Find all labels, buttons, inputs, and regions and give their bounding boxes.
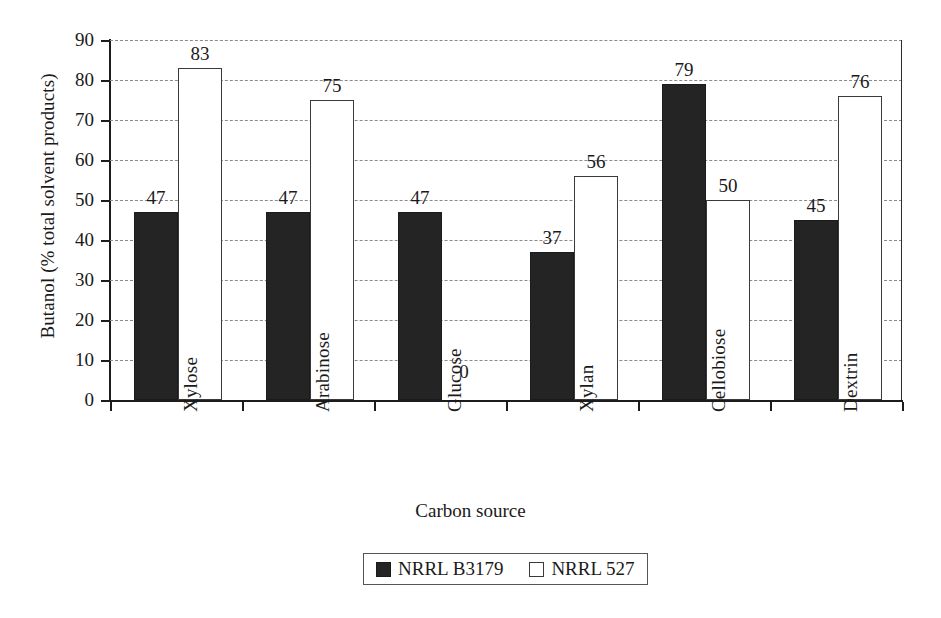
bar-value-label: 45 — [794, 196, 838, 215]
gridline — [110, 240, 902, 241]
plot-area: 47834775470375679504576 — [110, 40, 902, 400]
y-axis-tick — [101, 320, 110, 322]
y-axis-tick-label: 10 — [48, 350, 94, 369]
bar-value-label: 56 — [574, 152, 618, 171]
y-axis-tick-label: 50 — [48, 190, 94, 209]
y-axis-tick — [101, 40, 110, 42]
y-axis-tick-label: 90 — [48, 30, 94, 49]
x-axis-category-label: Cellobiose — [708, 329, 730, 412]
x-axis-tick — [242, 402, 244, 411]
bar — [662, 84, 706, 400]
x-axis-title: Carbon source — [0, 500, 941, 522]
bar — [398, 212, 442, 400]
bar — [794, 220, 838, 400]
y-axis-tick-label: 30 — [48, 270, 94, 289]
x-axis-category-label: Xylose — [180, 357, 202, 412]
y-axis-tick — [101, 80, 110, 82]
gridline — [110, 40, 902, 41]
y-axis-tick — [101, 240, 110, 242]
bar-value-label: 47 — [398, 188, 442, 207]
chart-legend: NRRL B3179NRRL 527 — [363, 553, 648, 585]
bar-value-label: 76 — [838, 72, 882, 91]
x-axis-category-label: Xylan — [576, 365, 598, 412]
legend-item: NRRL 527 — [529, 558, 634, 580]
bar — [266, 212, 310, 400]
bar — [530, 252, 574, 400]
y-axis-tick-label: 40 — [48, 230, 94, 249]
x-axis-tick — [770, 402, 772, 411]
x-axis-tick — [374, 402, 376, 411]
bar-value-label: 75 — [310, 76, 354, 95]
x-axis-category-label: Arabinose — [312, 332, 334, 412]
gridline — [110, 80, 902, 81]
y-axis-tick-label: 20 — [48, 310, 94, 329]
y-axis-tick — [101, 360, 110, 362]
legend-swatch-icon — [529, 562, 544, 577]
x-axis-tick — [902, 402, 904, 411]
x-axis-category-label: Dextrin — [840, 353, 862, 412]
gridline — [110, 360, 902, 361]
bar-value-label: 37 — [530, 228, 574, 247]
bar-chart-figure: Butanol (% total solvent products) 01020… — [0, 0, 941, 618]
y-axis-tick-label: 80 — [48, 70, 94, 89]
y-axis-tick — [101, 400, 110, 402]
y-axis-tick-label: 0 — [48, 390, 94, 409]
gridline — [110, 280, 902, 281]
y-axis-tick — [101, 200, 110, 202]
x-axis-tick — [110, 402, 112, 411]
y-axis-tick — [101, 120, 110, 122]
bar-value-label: 50 — [706, 176, 750, 195]
legend-label: NRRL 527 — [551, 558, 634, 580]
gridline — [110, 160, 902, 161]
y-axis-tick — [101, 280, 110, 282]
bar-value-label: 47 — [134, 188, 178, 207]
gridline — [110, 320, 902, 321]
gridline — [110, 120, 902, 121]
bar-value-label: 47 — [266, 188, 310, 207]
bar — [178, 68, 222, 400]
legend-swatch-icon — [376, 562, 391, 577]
plot-right-border — [901, 40, 902, 400]
y-axis-tick-label: 60 — [48, 150, 94, 169]
gridline — [110, 200, 902, 201]
bar-value-label: 79 — [662, 60, 706, 79]
bar-value-label: 83 — [178, 44, 222, 63]
x-axis-tick — [506, 402, 508, 411]
y-axis-tick-label: 70 — [48, 110, 94, 129]
bar — [134, 212, 178, 400]
legend-label: NRRL B3179 — [398, 558, 503, 580]
legend-item: NRRL B3179 — [376, 558, 503, 580]
y-axis-tick — [101, 160, 110, 162]
x-axis-tick — [638, 402, 640, 411]
x-axis-category-label: Glucose — [444, 348, 466, 412]
